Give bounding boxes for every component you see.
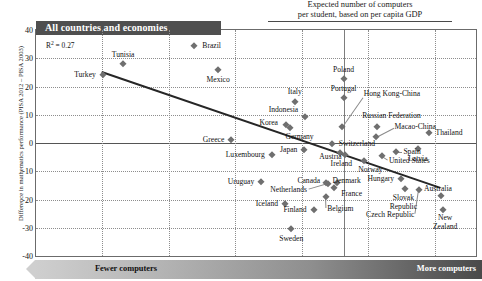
x-axis-gradient-band: Fewer computers More computers <box>35 260 482 279</box>
point-label-luxembourg: Luxembourg <box>226 151 265 159</box>
point-label-united-states: United States <box>389 157 430 165</box>
chart-figure: Expected number of computers per student… <box>0 0 482 281</box>
caption-line-1: Expected number of computers <box>268 0 452 10</box>
data-point-uruguay[interactable] <box>257 178 265 186</box>
data-point-portugal[interactable] <box>340 95 348 103</box>
plot-area: All countries and economies R2 = 0.27 40… <box>35 29 477 257</box>
y-axis-tick: -10 <box>22 167 33 176</box>
series-header-band: All countries and economies <box>36 21 221 35</box>
y-axis-tick: 20 <box>25 82 33 91</box>
point-label-uruguay: Uruguay <box>228 178 255 186</box>
r-squared-annotation: R2 = 0.27 <box>46 40 75 50</box>
data-point-mexico[interactable] <box>214 66 222 74</box>
point-label-hong-kong-china: Hong Kong-China <box>364 90 420 98</box>
point-label-poland: Poland <box>333 65 354 73</box>
point-label-korea: Korea <box>259 119 278 127</box>
data-point-luxembourg[interactable] <box>268 151 276 159</box>
point-label-new-zealand-2: Zealand <box>433 223 457 231</box>
point-label-norway: Norway <box>358 165 382 173</box>
y-axis-tick: -20 <box>22 195 33 204</box>
point-label-netherlands: Netherlands <box>270 186 307 194</box>
point-label-spain: Spain <box>403 148 420 156</box>
point-label-switzerland: Switzerland <box>339 140 375 148</box>
point-label-germany: Germany <box>285 133 313 141</box>
y-axis-tick: -30 <box>22 223 33 232</box>
point-label-czech-republic: Czech Republic <box>366 211 414 219</box>
point-label-denmark: Denmark <box>332 177 360 185</box>
data-point-spain[interactable] <box>393 148 401 156</box>
point-label-russian-federation: Russian Federation <box>362 112 420 120</box>
point-label-hungary: Hungary <box>368 175 395 183</box>
point-label-indonesia: Indonesia <box>269 105 299 113</box>
y-axis-tick: 0 <box>29 139 33 148</box>
y-axis-tick: 10 <box>25 110 33 119</box>
point-label-brazil: Brazil <box>202 41 221 49</box>
data-point-switzerland[interactable] <box>328 141 336 149</box>
point-label-portugal: Portugal <box>331 85 357 93</box>
data-point-poland[interactable] <box>340 76 348 84</box>
caption-line-2: per student, based on per capita GDP <box>268 10 452 20</box>
point-label-ireland: Ireland <box>331 160 353 168</box>
gridline-v <box>302 30 303 256</box>
y-axis-title: Difference in mathematics performance (P… <box>17 18 24 250</box>
data-point-germany[interactable] <box>286 124 294 132</box>
point-label-sweden: Sweden <box>279 235 303 243</box>
data-point-russian-federation[interactable] <box>373 123 381 131</box>
x-axis-label-left: Fewer computers <box>95 264 157 273</box>
point-label-macao-china: Macao-China <box>395 122 436 130</box>
point-label-japan: Japan <box>280 146 297 154</box>
point-label-turkey: Turkey <box>74 71 96 79</box>
point-label-tunisia: Tunisia <box>112 51 135 59</box>
data-point-czech-republic[interactable] <box>415 186 423 194</box>
y-axis-tick: 40 <box>25 26 33 35</box>
point-label-iceland: Iceland <box>256 200 278 208</box>
point-label-mexico: Mexico <box>207 76 230 84</box>
gridline-v <box>235 30 236 256</box>
point-label-france: France <box>341 190 362 198</box>
point-label-finland: Finland <box>283 205 306 213</box>
data-point-tunisia[interactable] <box>119 60 127 68</box>
y-axis-tick: 30 <box>25 54 33 63</box>
series-header-label: All countries and economies <box>45 22 167 33</box>
point-label-thailand: Thailand <box>436 129 463 137</box>
hong-kong-leader <box>342 98 363 128</box>
gridline-v <box>102 30 103 256</box>
point-label-italy: Italy <box>288 88 302 96</box>
data-point-brazil[interactable] <box>191 42 199 50</box>
x-axis-label-right: More computers <box>417 264 476 273</box>
point-label-greece: Greece <box>203 136 225 144</box>
point-label-belgium: Belgium <box>327 205 353 213</box>
gridline-v <box>169 30 170 256</box>
data-point-finland[interactable] <box>310 206 318 214</box>
expected-computers-caption: Expected number of computers per student… <box>268 0 452 22</box>
point-label-australia: Australia <box>424 185 452 193</box>
data-point-japan[interactable] <box>301 146 309 154</box>
